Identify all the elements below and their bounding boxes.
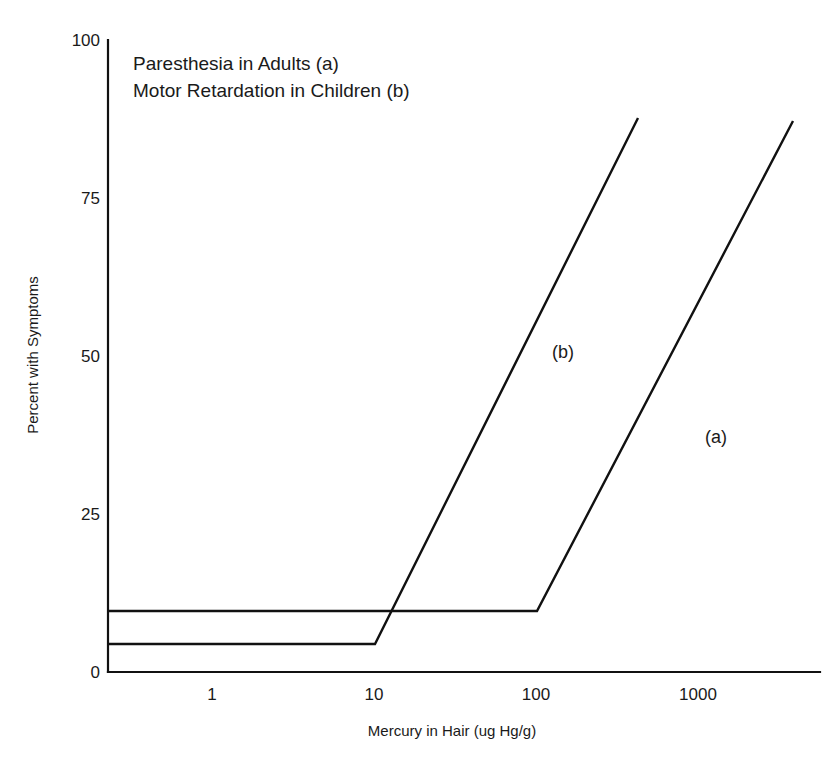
x-tick-label-100: 100 — [522, 685, 550, 704]
x-axis-title: Mercury in Hair (ug Hg/g) — [368, 722, 536, 739]
y-tick-label-100: 100 — [72, 31, 100, 50]
curve-label-b: (b) — [552, 342, 574, 362]
chart-figure: 100 75 50 25 0 1 10 100 1000 Mercury in … — [0, 0, 835, 771]
legend-line-a: Paresthesia in Adults (a) — [133, 53, 339, 74]
x-tick-label-1: 1 — [207, 685, 216, 704]
y-axis-title: Percent with Symptoms — [24, 276, 41, 434]
y-tick-label-25: 25 — [81, 505, 100, 524]
y-tick-label-75: 75 — [81, 189, 100, 208]
series-line-b — [109, 118, 638, 644]
x-tick-label-10: 10 — [365, 685, 384, 704]
y-tick-label-0: 0 — [91, 663, 100, 682]
series-line-a — [109, 121, 793, 611]
x-tick-label-1000: 1000 — [679, 685, 717, 704]
legend-line-b: Motor Retardation in Children (b) — [133, 80, 410, 101]
y-tick-label-50: 50 — [81, 347, 100, 366]
curve-label-a: (a) — [705, 427, 727, 447]
chart-canvas: 100 75 50 25 0 1 10 100 1000 Mercury in … — [0, 0, 835, 771]
